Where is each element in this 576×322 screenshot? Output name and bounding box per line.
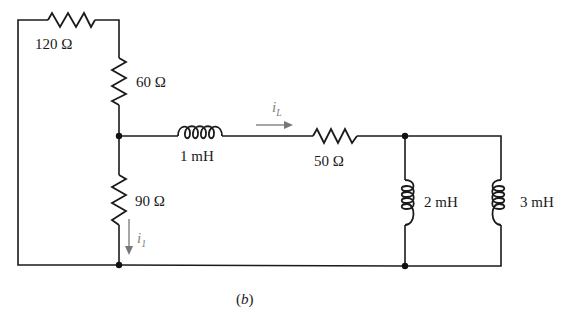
label-60-ohm: 60 Ω: [136, 74, 166, 90]
wire-top-right: [95, 20, 119, 58]
arrowhead-down-icon: [125, 246, 133, 255]
wire-left-loop: [18, 20, 119, 265]
inductor-3-mh: [492, 180, 504, 225]
wire-3mh-to-bottom: [405, 225, 501, 266]
node-left-bottom: [116, 262, 122, 268]
label-current-iL: iL: [272, 99, 282, 118]
circuit-diagram: 120 Ω 60 Ω 1 mH iL 50 Ω 90 Ω i1 2 mH 3 m…: [0, 0, 576, 322]
label-120-ohm: 120 Ω: [35, 36, 72, 52]
label-2-mh: 2 mH: [424, 194, 458, 210]
wire-bottom-rail: [119, 265, 405, 266]
label-90-ohm: 90 Ω: [135, 193, 165, 209]
node-left-middle: [116, 133, 122, 139]
node-right-bottom: [402, 263, 408, 269]
resistor-60-ohm: [112, 58, 126, 105]
resistor-50-ohm: [313, 129, 357, 143]
wire-50-to-right-node: [357, 136, 501, 180]
node-right-top: [402, 133, 408, 139]
inductor-1-mh: [178, 126, 222, 138]
resistor-90-ohm: [112, 175, 126, 225]
figure-caption: (b): [236, 291, 254, 308]
resistor-120-ohm: [48, 13, 95, 27]
label-current-i1: i1: [137, 230, 146, 249]
label-1-mh: 1 mH: [180, 148, 214, 164]
label-50-ohm: 50 Ω: [314, 153, 344, 169]
label-3-mh: 3 mH: [520, 194, 554, 210]
arrowhead-right-icon: [284, 121, 293, 129]
inductor-2-mh: [402, 180, 414, 225]
